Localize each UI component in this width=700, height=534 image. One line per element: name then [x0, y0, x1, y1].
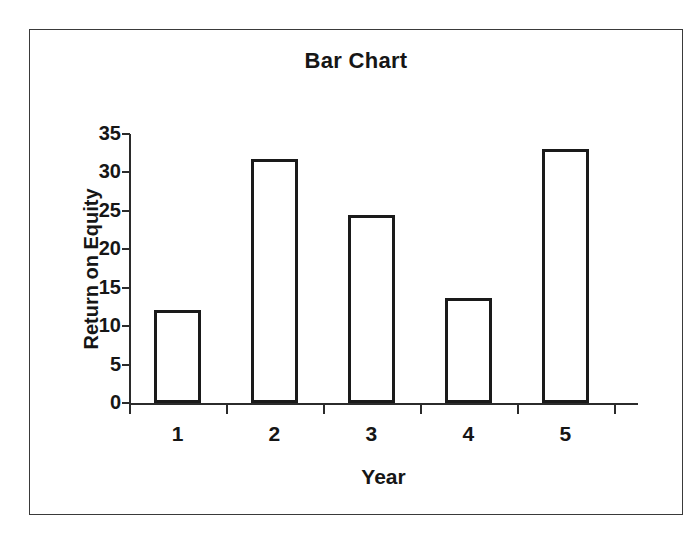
y-tick-mark: [122, 364, 130, 366]
x-tick-mark: [517, 405, 519, 414]
y-tick-mark: [122, 133, 130, 135]
bar-3[interactable]: [348, 215, 395, 403]
x-tick-mark: [614, 405, 616, 414]
y-tick-mark: [122, 210, 130, 212]
y-tick-label: 5: [81, 353, 121, 375]
x-axis-label: 3: [341, 422, 401, 446]
y-axis-title: Return on Equity: [80, 188, 103, 349]
x-tick-mark: [323, 405, 325, 414]
bar-2[interactable]: [251, 159, 298, 403]
x-tick-mark: [420, 405, 422, 414]
y-tick-mark: [122, 402, 130, 404]
y-tick-label: 30: [81, 160, 121, 182]
y-tick-mark: [122, 325, 130, 327]
bar-5[interactable]: [542, 149, 589, 403]
chart-frame: Bar Chart 05101520253035 12345 Return on…: [29, 29, 683, 515]
chart-title: Bar Chart: [30, 48, 682, 74]
y-tick-mark: [122, 248, 130, 250]
x-tick-mark: [226, 405, 228, 414]
y-tick-label: 35: [81, 122, 121, 144]
x-axis-title: Year: [129, 465, 638, 489]
x-axis-line: [129, 403, 638, 405]
x-axis-label: 5: [535, 422, 595, 446]
bar-4[interactable]: [445, 298, 492, 403]
x-axis-label: 1: [147, 422, 207, 446]
y-tick-label: 0: [81, 391, 121, 413]
bar-1[interactable]: [154, 310, 201, 403]
x-axis-label: 2: [244, 422, 304, 446]
x-tick-mark: [129, 405, 131, 414]
plot-area: 05101520253035 12345 Return on Equity Ye…: [129, 134, 638, 403]
y-tick-mark: [122, 171, 130, 173]
x-axis-label: 4: [438, 422, 498, 446]
y-tick-mark: [122, 287, 130, 289]
